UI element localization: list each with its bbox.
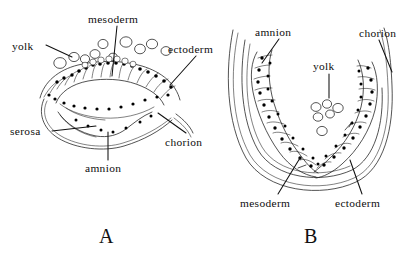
label-b-amnion: amnion — [255, 26, 291, 38]
panel-letters: A B — [99, 225, 317, 247]
panel-b-drawing — [228, 28, 392, 190]
label-b-chorion: chorion — [359, 27, 396, 39]
panel-a-apical-cells — [82, 56, 136, 68]
label-a-mesoderm: mesoderm — [88, 13, 138, 25]
panel-letter-b: B — [304, 225, 317, 247]
panel-b-yolk-spheres — [311, 100, 343, 136]
panel-a-amnion-membrane — [58, 112, 152, 137]
panel-letter-a: A — [99, 225, 114, 247]
panel-b-germ-band-left — [251, 50, 318, 177]
label-b-yolk: yolk — [313, 60, 335, 72]
label-a-ectoderm: ectoderm — [168, 43, 213, 55]
embryology-figure: yolk mesoderm ectoderm serosa chorion am… — [0, 0, 408, 259]
label-a-serosa: serosa — [10, 125, 41, 137]
label-b-ectoderm: ectoderm — [335, 197, 380, 209]
panel-b-germ-band-right — [314, 60, 377, 178]
panel-b-left-cell-walls — [254, 55, 316, 165]
panel-a-labels: yolk mesoderm ectoderm serosa chorion am… — [10, 13, 213, 174]
panel-a-nuclei — [47, 61, 172, 133]
leader-a-yolk — [46, 45, 72, 57]
leader-a-serosa — [52, 126, 96, 131]
label-a-chorion: chorion — [165, 136, 202, 148]
label-a-yolk: yolk — [12, 40, 34, 52]
leader-a-mesoderm — [112, 26, 117, 76]
panel-b-right-nuclei — [317, 66, 374, 166]
panel-b-left-nuclei — [256, 56, 314, 167]
label-b-mesoderm: mesoderm — [240, 197, 290, 209]
leader-b-amnion — [262, 39, 279, 63]
leader-a-ectoderm — [170, 56, 196, 85]
panel-a-yolk-spheres — [54, 37, 171, 69]
figure-canvas: yolk mesoderm ectoderm serosa chorion am… — [0, 0, 408, 259]
leader-a-chorion — [158, 113, 186, 133]
label-a-amnion: amnion — [85, 162, 121, 174]
leader-b-ectoderm — [350, 160, 362, 194]
panel-a-cell-columns — [44, 63, 175, 98]
